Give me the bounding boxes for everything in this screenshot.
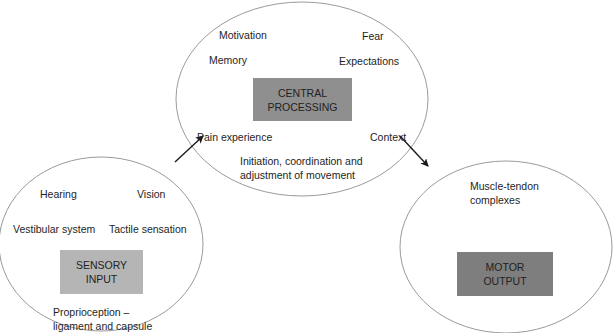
label-vestibular-system: Vestibular system (13, 222, 95, 236)
label-muscle-tendon-line2: complexes (470, 193, 520, 207)
label-context: Context (370, 130, 406, 144)
motor-box-line1: MOTOR (483, 260, 526, 274)
label-proprio-line2: ligament and capsule (53, 319, 152, 333)
label-movement-line2: adjustment of movement (240, 168, 355, 182)
label-pain-experience: Pain experience (197, 130, 272, 144)
label-muscle-tendon-line1: Muscle-tendon (470, 179, 539, 193)
label-motivation: Motivation (219, 28, 267, 42)
motor-output-box: MOTOR OUTPUT (457, 252, 553, 296)
label-fear: Fear (362, 29, 384, 43)
label-hearing: Hearing (40, 187, 77, 201)
central-box-line1: CENTRAL (267, 86, 337, 100)
sensory-box-line2: INPUT (76, 272, 127, 286)
central-processing-box: CENTRAL PROCESSING (253, 78, 352, 121)
central-box-line2: PROCESSING (267, 100, 337, 114)
label-memory: Memory (209, 53, 247, 67)
label-tactile-sensation: Tactile sensation (109, 222, 187, 236)
sensory-input-box: SENSORY INPUT (60, 250, 143, 294)
label-vision: Vision (137, 187, 165, 201)
sensory-box-line1: SENSORY (76, 258, 127, 272)
label-expectations: Expectations (339, 54, 399, 68)
label-movement-line1: Initiation, coordination and (240, 154, 363, 168)
label-proprio-line1: Proprioception – (53, 305, 129, 319)
motor-box-line2: OUTPUT (483, 274, 526, 288)
